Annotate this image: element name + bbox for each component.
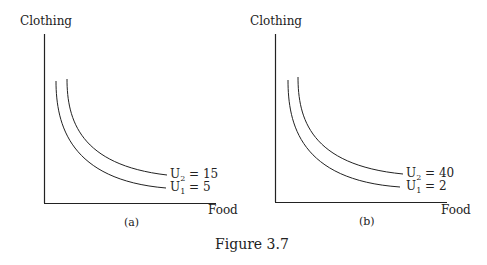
panel-b-curve-u2-label: U2 = 40 (406, 166, 454, 180)
panel-b-caption: (b) (359, 215, 375, 228)
panel-a-curve-u1-label: U1 = 5 (170, 180, 211, 194)
panel-b-curve-u2 (298, 77, 403, 174)
panel-b-indifference-curves (288, 77, 403, 187)
panel-a-x-axis-label: Food (208, 203, 238, 217)
panel-b-curve-u1-label: U1 = 2 (406, 179, 447, 193)
panel-b-x-axis-label: Food (441, 203, 471, 217)
figure-canvas (0, 0, 487, 265)
panel-a-indifference-curves (56, 79, 167, 188)
panel-b-y-axis-label: Clothing (250, 14, 302, 28)
panel-a-caption: (a) (124, 216, 139, 229)
figure-caption: Figure 3.7 (215, 236, 289, 252)
panel-a-curve-u2-label: U2 = 15 (170, 167, 218, 181)
panel-a-curve-u2 (67, 79, 167, 175)
panel-a-y-axis-label: Clothing (20, 14, 72, 28)
